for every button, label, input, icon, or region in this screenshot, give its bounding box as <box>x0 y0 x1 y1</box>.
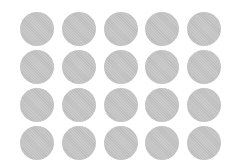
circle-icon <box>104 126 138 160</box>
circle-icon <box>20 12 54 46</box>
circle-icon <box>187 88 221 122</box>
circle-icon <box>62 126 96 160</box>
circle-icon <box>62 12 96 46</box>
dot-grid <box>0 0 241 162</box>
circle-icon <box>187 126 221 160</box>
circle-icon <box>20 50 54 84</box>
circle-icon <box>145 12 179 46</box>
circle-icon <box>187 50 221 84</box>
circle-icon <box>104 12 138 46</box>
circle-icon <box>104 50 138 84</box>
circle-icon <box>20 88 54 122</box>
circle-icon <box>187 12 221 46</box>
circle-icon <box>104 88 138 122</box>
circle-icon <box>145 88 179 122</box>
circle-icon <box>20 126 54 160</box>
circle-icon <box>62 88 96 122</box>
circle-icon <box>62 50 96 84</box>
circle-icon <box>145 50 179 84</box>
circle-icon <box>145 126 179 160</box>
